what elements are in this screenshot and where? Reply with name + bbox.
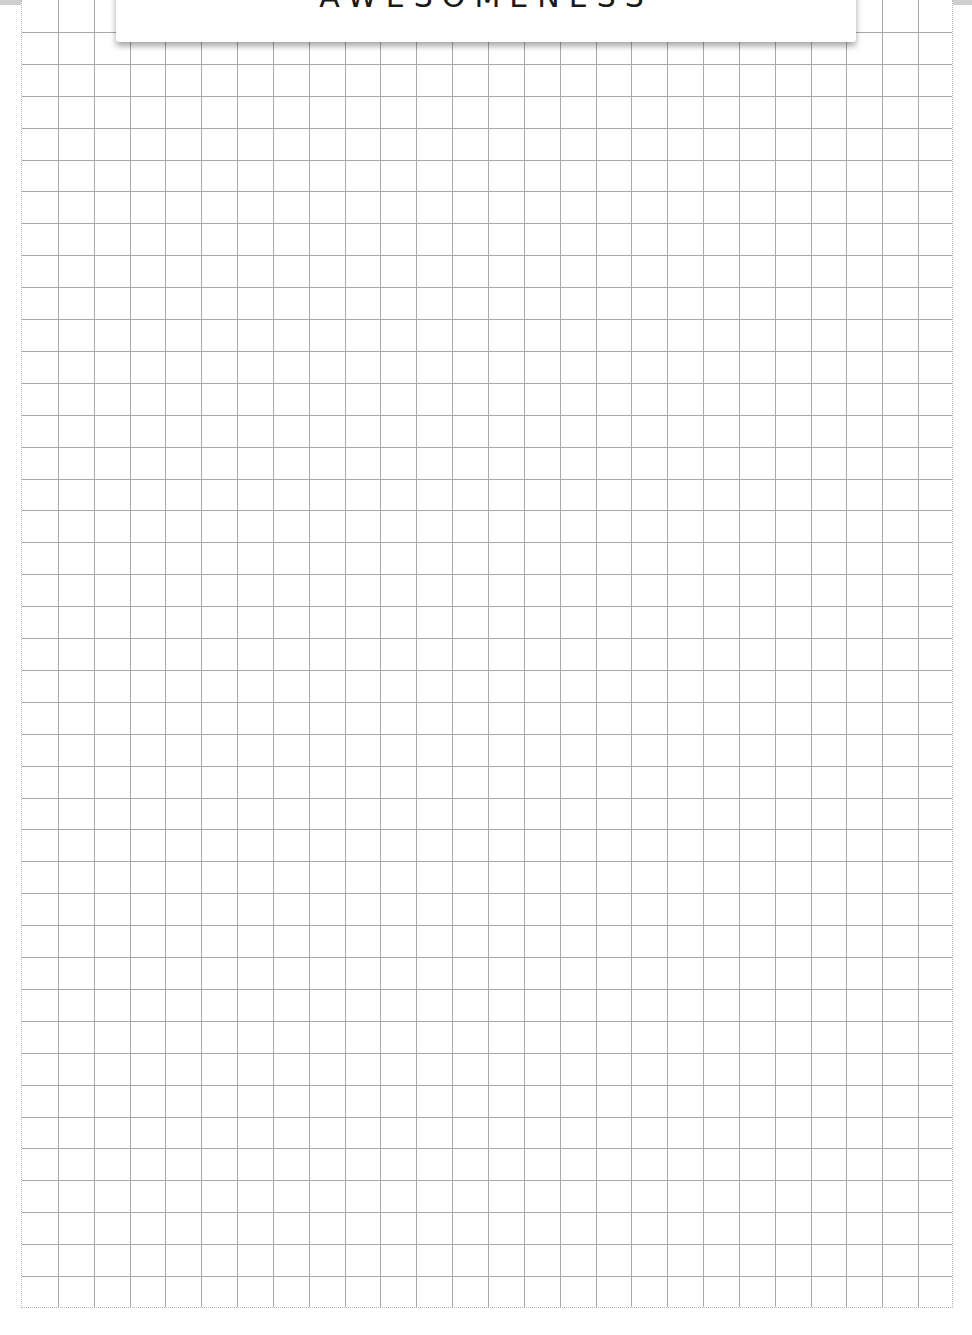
title-text: AWESOMENESS [116,0,856,12]
grid-lines [22,0,952,1307]
title-card: AWESOMENESS [116,0,856,42]
grid-paper [21,0,953,1308]
